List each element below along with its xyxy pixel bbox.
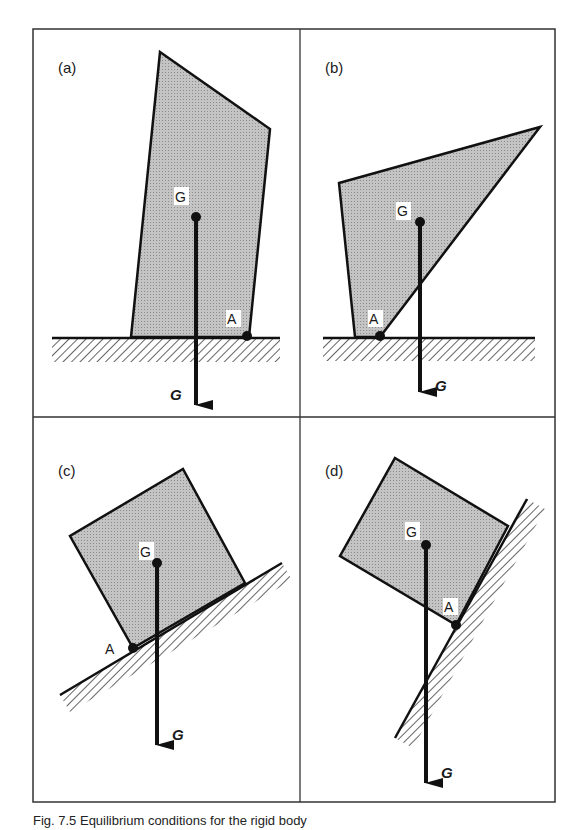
- ground-hatch: [52, 338, 280, 362]
- pivot-point-label: A: [227, 311, 237, 327]
- weight-force-label: G: [441, 764, 453, 781]
- panel-c-label: (c): [58, 462, 76, 479]
- figure-caption: Fig. 7.5 Equilibrium conditions for the …: [33, 813, 307, 828]
- weight-force-label: G: [435, 377, 447, 394]
- weight-force-label: G: [172, 726, 184, 743]
- center-of-gravity-label: G: [175, 189, 186, 205]
- center-of-gravity-label: G: [397, 203, 408, 219]
- rigid-body-shape: [131, 52, 270, 337]
- panel-c: (c) G G A: [58, 462, 292, 745]
- panel-d: (d) G G A: [325, 458, 545, 783]
- pivot-point: [242, 331, 252, 341]
- panel-b-label: (b): [325, 59, 343, 76]
- pivot-point: [451, 620, 461, 630]
- panel-a-label: (a): [58, 59, 76, 76]
- panel-d-label: (d): [325, 462, 343, 479]
- pivot-point-label: A: [369, 311, 379, 327]
- center-of-gravity-label: G: [140, 544, 151, 560]
- panel-b: (b) G G A: [323, 59, 540, 394]
- center-of-gravity-label: G: [406, 524, 417, 540]
- pivot-point-label: A: [105, 641, 115, 657]
- equilibrium-figure: (a) G G A (b) G G A (c): [0, 0, 579, 830]
- pivot-point: [375, 331, 385, 341]
- pivot-point-label: A: [444, 599, 454, 615]
- ground-hatch: [323, 339, 535, 361]
- panel-a: (a) G G A: [52, 52, 282, 405]
- rigid-body-shape: [339, 127, 540, 337]
- pivot-point: [128, 643, 138, 653]
- weight-force-label: G: [170, 386, 182, 403]
